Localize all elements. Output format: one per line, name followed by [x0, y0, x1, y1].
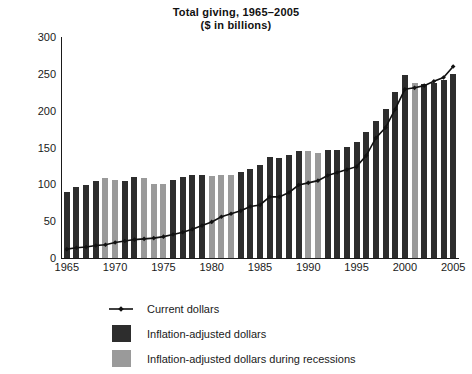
y-axis-tick-label: 300 — [38, 31, 56, 43]
x-axis-tick-label: 1980 — [199, 261, 223, 273]
legend-item-2: Inflation-adjusted dollars during recess… — [108, 346, 438, 371]
x-axis-tick-label: 1975 — [151, 261, 175, 273]
x-axis-line — [61, 258, 459, 259]
line-marker-2001 — [412, 86, 417, 91]
line-marker-1976 — [171, 232, 176, 237]
line-marker-1974 — [151, 236, 156, 241]
chart-container: Total giving, 1965–2005 ($ in billions) … — [0, 0, 472, 374]
legend-item-label: Current dollars — [147, 303, 219, 315]
x-axis-tick-label: 1965 — [55, 261, 79, 273]
legend-line-marker-icon — [108, 300, 134, 317]
chart-title: Total giving, 1965–2005 — [0, 6, 472, 19]
legend-item-label: Inflation-adjusted dollars during recess… — [147, 353, 356, 365]
x-axis-tick-label: 1990 — [296, 261, 320, 273]
line-marker-1968 — [94, 243, 99, 248]
x-axis-labels: 196519701975198019851990199520002005 — [0, 261, 472, 281]
line-marker-1966 — [74, 245, 79, 250]
line-marker-1969 — [103, 242, 108, 247]
y-axis-tick-label: 200 — [38, 105, 56, 117]
current-dollars-polyline — [67, 66, 453, 249]
x-axis-tick-label: 1970 — [103, 261, 127, 273]
x-axis-tick-label: 1995 — [344, 261, 368, 273]
current-dollars-line-series — [62, 37, 458, 258]
chart-subtitle: ($ in billions) — [0, 19, 472, 32]
line-marker-1965 — [65, 247, 70, 252]
chart-legend: Current dollarsInflation-adjusted dollar… — [108, 296, 438, 371]
line-marker-1967 — [84, 245, 89, 250]
legend-swatch-recession — [112, 350, 131, 367]
line-marker-1973 — [142, 237, 147, 242]
legend-item-0: Current dollars — [108, 296, 438, 321]
chart-title-block: Total giving, 1965–2005 ($ in billions) — [0, 6, 472, 32]
plot-area — [62, 37, 458, 258]
y-axis-tick-label: 50 — [44, 215, 56, 227]
legend-swatch-inflation-adjusted — [112, 325, 131, 342]
line-marker-1979 — [200, 223, 205, 228]
legend-swatch-wrapper — [108, 350, 134, 367]
line-marker-1970 — [113, 240, 118, 245]
x-axis-tick-label: 2005 — [441, 261, 465, 273]
line-marker-1978 — [190, 227, 195, 232]
line-marker-1990 — [306, 181, 311, 186]
y-axis-labels: 050100150200250300 — [0, 0, 56, 258]
line-marker-icon — [108, 304, 134, 314]
line-marker-1977 — [180, 230, 185, 235]
y-axis-tick-label: 150 — [38, 142, 56, 154]
x-axis-tick-label: 2000 — [393, 261, 417, 273]
x-axis-tick-label: 1985 — [248, 261, 272, 273]
legend-item-1: Inflation-adjusted dollars — [108, 321, 438, 346]
line-marker-1993 — [335, 170, 340, 175]
line-marker-1975 — [161, 234, 166, 239]
line-marker-1982 — [229, 212, 234, 217]
line-marker-1994 — [345, 167, 350, 172]
line-marker-1971 — [122, 239, 127, 244]
legend-swatch-wrapper — [108, 325, 134, 342]
y-axis-tick-label: 100 — [38, 178, 56, 190]
y-axis-tick-label: 250 — [38, 68, 56, 80]
legend-item-label: Inflation-adjusted dollars — [147, 328, 266, 340]
line-marker-1972 — [132, 237, 137, 242]
